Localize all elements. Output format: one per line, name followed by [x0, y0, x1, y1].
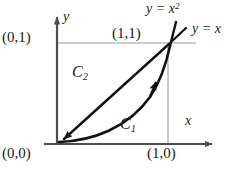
- axis-label-y: y: [63, 10, 69, 24]
- point-label-origin: (0,0): [2, 146, 31, 161]
- curve-label-c1-subscript: 1: [131, 123, 136, 134]
- point-label-zero-one: (0,1): [2, 30, 31, 45]
- equation-parabola-text: y = x: [146, 1, 175, 16]
- point-label-one-one: (1,1): [112, 26, 141, 41]
- figure-canvas: (0,0) (0,1) (1,1) (1,0) y x y = x2 y = x…: [0, 0, 241, 178]
- equation-label-parabola: y = x2: [146, 2, 180, 16]
- curve-label-c1-base: C: [120, 115, 131, 132]
- point-label-one-zero: (1,0): [147, 146, 176, 161]
- curve-label-c2: C2: [72, 64, 88, 83]
- curve-label-c1: C1: [120, 116, 136, 135]
- axis-label-x: x: [185, 114, 191, 128]
- curve-label-c2-base: C: [72, 63, 83, 80]
- equation-parabola-exponent: 2: [175, 1, 180, 11]
- curve-label-c2-subscript: 2: [83, 71, 88, 82]
- equation-label-line: y = x: [192, 22, 221, 36]
